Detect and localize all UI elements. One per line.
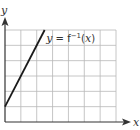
- x-axis-label: x: [133, 116, 140, 129]
- chart: x y y = f−1(x): [0, 0, 140, 130]
- function-label-eq: = f: [52, 33, 71, 44]
- series-group: [5, 30, 45, 107]
- function-label: y = f−1(x): [45, 32, 95, 45]
- y-axis-label: y: [0, 4, 8, 17]
- function-label-close: ): [91, 33, 95, 44]
- function-label-sup: −1: [71, 32, 81, 40]
- series-line-inverse-function: [5, 30, 45, 107]
